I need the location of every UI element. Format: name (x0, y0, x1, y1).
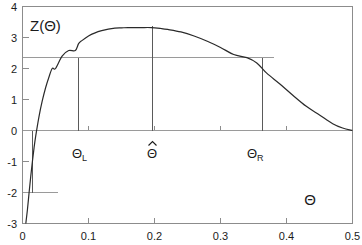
ytick-label-m2: -2 (7, 187, 17, 199)
x-axis-ticks (23, 218, 353, 224)
ytick-label-m1: -1 (7, 156, 17, 168)
profile-likelihood-chart: 4 3 2 1 0 -1 -2 -3 0 0.1 0.2 0.3 0.4 0.5… (0, 0, 362, 245)
theta-right-label: Θ R (247, 146, 264, 163)
xtick-label-0p2: 0.2 (147, 230, 162, 242)
x-axis-label: Θ (304, 191, 316, 208)
y-axis-label: Z(Θ) (30, 17, 61, 34)
x-axis-top-ticks (89, 126, 287, 131)
theta-hat-label: Θ (147, 142, 157, 162)
ytick-label-4: 4 (11, 1, 17, 13)
x-axis-tick-labels: 0 0.1 0.2 0.3 0.4 0.5 (19, 230, 360, 242)
theta-right-subscript: R (257, 153, 264, 163)
chart-screenshot: 4 3 2 1 0 -1 -2 -3 0 0.1 0.2 0.3 0.4 0.5… (0, 0, 362, 245)
xtick-label-0p5: 0.5 (345, 230, 360, 242)
y-axis-ticks (23, 7, 29, 224)
theta-hat-base: Θ (147, 146, 157, 161)
theta-left-base: Θ (72, 146, 82, 161)
ytick-label-2: 2 (11, 63, 17, 75)
xtick-label-0p3: 0.3 (213, 230, 228, 242)
ytick-label-3: 3 (11, 32, 17, 44)
theta-right-base: Θ (247, 146, 257, 161)
ytick-label-m3: -3 (7, 218, 17, 230)
xtick-label-0p4: 0.4 (279, 230, 294, 242)
ytick-label-1: 1 (11, 94, 17, 106)
xtick-label-0: 0 (19, 230, 25, 242)
theta-left-label: Θ L (72, 146, 87, 163)
theta-left-subscript: L (82, 153, 87, 163)
xtick-label-0p1: 0.1 (81, 230, 96, 242)
plot-frame (23, 7, 353, 224)
y-axis-tick-labels: 4 3 2 1 0 -1 -2 -3 (7, 1, 17, 230)
hat-accent-icon (149, 142, 157, 146)
ytick-label-0: 0 (11, 125, 17, 137)
